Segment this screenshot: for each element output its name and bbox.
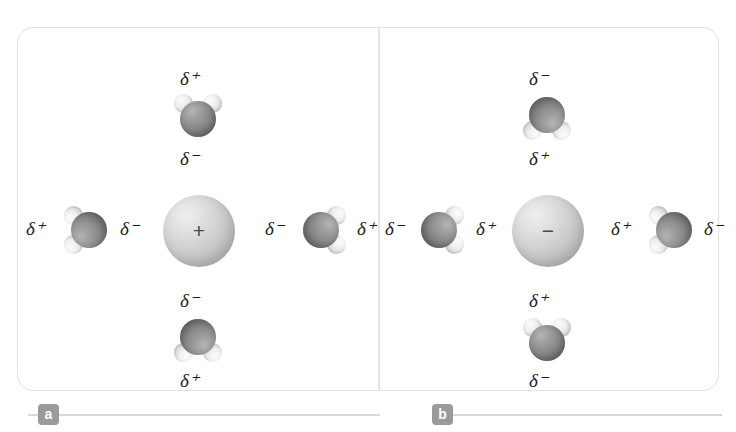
oxygen-atom [303, 212, 339, 248]
panel-b-top-outer-charge: δ⁻ [529, 69, 548, 88]
panel-a: δ⁺ δ⁻ δ⁺ δ⁻ + δ⁻ [17, 27, 378, 391]
oxygen-atom [529, 97, 565, 133]
oxygen-atom [656, 212, 692, 248]
panel-b: δ⁻ δ⁺ δ⁻ δ⁺ − δ⁺ [379, 27, 719, 391]
panel-b-water-bottom [520, 313, 574, 367]
oxygen-atom [180, 101, 216, 137]
panel-a-bottom-inner-charge: δ⁻ [180, 291, 199, 310]
panel-b-water-left [415, 203, 469, 257]
oxygen-atom [180, 319, 216, 355]
oxygen-atom [71, 212, 107, 248]
panel-a-water-top [171, 89, 225, 143]
panel-b-anion-sign: − [512, 195, 584, 267]
panel-a-water-left [59, 203, 113, 257]
panel-b-water-right [644, 203, 698, 257]
panel-a-left-outer-charge: δ⁺ [26, 219, 45, 238]
panel-a-bottom-outer-charge: δ⁺ [180, 371, 199, 390]
panel-b-bottom-inner-charge: δ⁺ [529, 291, 548, 310]
panel-b-bottom-outer-charge: δ⁻ [529, 371, 548, 390]
panel-a-right-outer-charge: δ⁺ [357, 219, 376, 238]
panel-a-cation-sign: + [163, 195, 235, 267]
panel-a-water-bottom [171, 313, 225, 367]
panel-a-top-outer-charge: δ⁺ [180, 69, 199, 88]
panel-b-right-outer-charge: δ⁻ [704, 219, 723, 238]
oxygen-atom [421, 212, 457, 248]
panel-a-water-right [297, 203, 351, 257]
panel-a-left-inner-charge: δ⁻ [120, 219, 139, 238]
figure-canvas: δ⁺ δ⁻ δ⁺ δ⁻ + δ⁻ [0, 0, 736, 432]
caption-rule-a [28, 414, 380, 416]
panel-b-top-inner-charge: δ⁺ [529, 149, 548, 168]
panel-a-top-inner-charge: δ⁻ [180, 149, 199, 168]
panel-label-a: a [38, 404, 59, 425]
panel-b-left-outer-charge: δ⁻ [385, 219, 404, 238]
caption-rule-b [432, 414, 722, 416]
panel-a-right-inner-charge: δ⁻ [265, 219, 284, 238]
oxygen-atom [529, 325, 565, 361]
panel-a-cation: + [163, 195, 235, 267]
panel-b-anion: − [512, 195, 584, 267]
panel-b-right-inner-charge: δ⁺ [611, 219, 630, 238]
panel-b-water-top [520, 91, 574, 145]
panel-b-left-inner-charge: δ⁺ [476, 219, 495, 238]
panel-label-b: b [432, 404, 453, 425]
